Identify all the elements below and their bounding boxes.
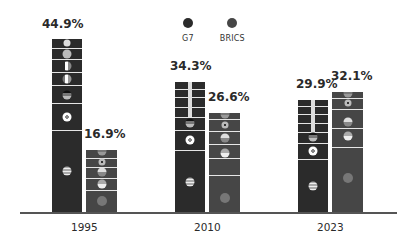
flag-south-africa-icon bbox=[97, 180, 106, 189]
value-label-g7-1995: 44.9% bbox=[42, 17, 84, 31]
flag-italy-icon bbox=[63, 75, 72, 84]
x-axis-baseline bbox=[20, 212, 397, 214]
flag-india-icon bbox=[344, 100, 351, 107]
flag-russia-icon bbox=[220, 113, 229, 119]
flag-brazil-icon bbox=[343, 118, 352, 127]
flag-south-africa-icon bbox=[220, 149, 229, 158]
bar-brics-2023 bbox=[332, 92, 363, 212]
flag-india-icon bbox=[221, 122, 228, 129]
flag-france-icon bbox=[63, 62, 72, 71]
flag-canada-icon bbox=[64, 40, 71, 47]
flag-india-icon bbox=[98, 159, 105, 166]
flag-usa-icon bbox=[63, 167, 72, 176]
flag-russia-icon bbox=[97, 150, 106, 156]
flag-uk-icon bbox=[63, 50, 72, 59]
legend: G7 BRICS bbox=[182, 18, 245, 43]
flag-china-icon bbox=[343, 173, 353, 183]
bar-g7-1995 bbox=[52, 39, 82, 212]
legend-label-brics: BRICS bbox=[220, 34, 245, 43]
brics-dot-icon bbox=[227, 18, 237, 28]
value-label-g7-2010: 34.3% bbox=[170, 59, 212, 73]
bar-brics-2010 bbox=[209, 113, 240, 212]
flag-brazil-icon bbox=[97, 168, 106, 177]
flag-japan-icon bbox=[63, 113, 72, 122]
value-label-brics-1995: 16.9% bbox=[84, 127, 126, 141]
legend-item-g7: G7 bbox=[182, 18, 194, 43]
bar-g7-2023 bbox=[298, 100, 328, 212]
year-label-2010: 2010 bbox=[194, 221, 221, 233]
flag-china-icon bbox=[97, 196, 107, 206]
flag-japan-icon bbox=[309, 147, 318, 156]
flag-usa-icon bbox=[309, 182, 318, 191]
flag-japan-icon bbox=[186, 136, 195, 145]
g7-dot-icon bbox=[183, 18, 193, 28]
flag-usa-icon bbox=[186, 178, 195, 187]
legend-item-brics: BRICS bbox=[220, 18, 245, 43]
flag-stack-canada-uk-france-italy-icon bbox=[188, 82, 192, 117]
year-label-1995: 1995 bbox=[71, 221, 98, 233]
flag-germany-icon bbox=[63, 91, 72, 100]
bar-g7-2010 bbox=[175, 82, 205, 212]
flag-stack-canada-uk-france-italy-icon bbox=[311, 100, 315, 132]
flag-russia-icon bbox=[343, 92, 352, 98]
flag-brazil-icon bbox=[220, 134, 229, 143]
flag-china-icon bbox=[220, 193, 230, 203]
legend-label-g7: G7 bbox=[182, 34, 194, 43]
flag-germany-icon bbox=[186, 119, 195, 128]
value-label-brics-2023: 32.1% bbox=[331, 69, 373, 83]
flag-south-africa-icon bbox=[343, 132, 352, 141]
flag-germany-icon bbox=[309, 133, 318, 142]
value-label-brics-2010: 26.6% bbox=[208, 90, 250, 104]
bar-brics-1995 bbox=[86, 150, 117, 212]
g7-vs-brics-bar-chart: G7 BRICS 44.9% 16.9% 34.3% bbox=[0, 0, 415, 246]
year-label-2023: 2023 bbox=[317, 221, 344, 233]
